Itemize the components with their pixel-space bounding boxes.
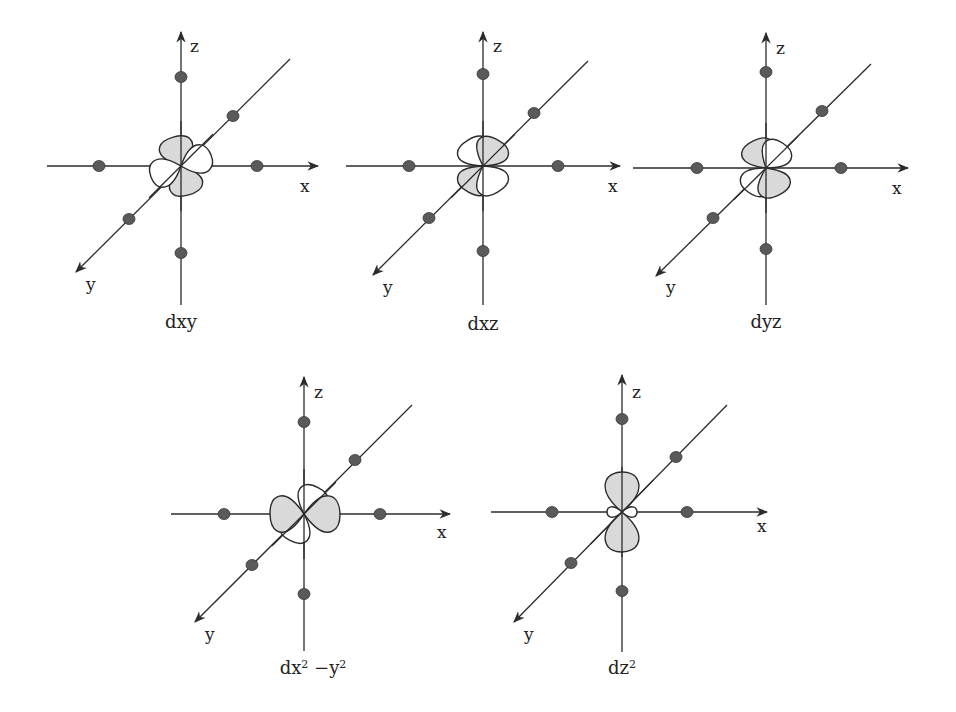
ligand-point	[298, 417, 310, 428]
ligand-point	[298, 589, 310, 600]
ligand-point	[423, 213, 435, 224]
panel-dxy: zxydxy	[47, 32, 318, 332]
ligand-point	[251, 161, 263, 172]
ligand-point	[707, 213, 719, 224]
ligand-point	[616, 586, 628, 597]
ligand-point	[616, 414, 628, 425]
y-axis-label: y	[665, 277, 676, 297]
orbital-caption: dyz	[750, 311, 781, 332]
ligand-point	[175, 248, 187, 259]
ligand-point	[835, 163, 847, 174]
ligand-point	[477, 69, 489, 80]
ligand-point	[175, 72, 187, 83]
ligand-point	[565, 558, 577, 569]
ligand-point	[670, 452, 682, 463]
ligand-point	[93, 161, 105, 172]
ligand-point	[528, 108, 540, 119]
x-axis-label: x	[757, 516, 767, 536]
ligand-point	[477, 246, 489, 257]
y-axis-label: y	[523, 624, 534, 644]
ligand-point	[552, 161, 564, 172]
orbital-diagram-canvas: zxydxyzxydxzzxydyzzxydx2 −y2zxydz2	[0, 0, 956, 712]
z-axis-label: z	[314, 382, 323, 402]
z-axis-label: z	[632, 382, 641, 402]
z-axis-label: z	[493, 36, 502, 56]
x-axis-label: x	[437, 522, 447, 542]
ligand-point	[760, 244, 772, 255]
x-axis-label: x	[300, 176, 310, 196]
z-axis-label: z	[776, 38, 785, 58]
orbital-caption: dz2	[608, 657, 636, 678]
ligand-point	[349, 455, 361, 466]
ligand-point	[227, 111, 239, 122]
ligand-point	[546, 507, 558, 518]
ligand-point	[218, 509, 230, 520]
d-orbital-figure: zxydxyzxydxzzxydyzzxydx2 −y2zxydz2 dxy d…	[0, 0, 956, 712]
panel-dx2-y2: zxydx2 −y2	[171, 377, 450, 678]
orbital-caption: dx2 −y2	[280, 657, 347, 678]
ligand-point	[691, 163, 703, 174]
ligand-point	[403, 161, 415, 172]
y-axis-label: y	[382, 277, 393, 297]
ligand-point	[681, 507, 693, 518]
panel-dz2: zxydz2	[491, 375, 767, 678]
ligand-point	[374, 509, 386, 520]
panel-dyz: zxydyz	[633, 33, 908, 332]
x-axis-label: x	[892, 178, 902, 198]
orbital-caption: dxz	[467, 313, 498, 334]
orbital-caption: dxy	[165, 311, 198, 332]
z-axis-label: z	[190, 36, 199, 56]
y-axis-label: y	[204, 624, 215, 644]
ligand-point	[760, 67, 772, 78]
x-axis-label: x	[608, 176, 618, 196]
y-axis-label: y	[85, 274, 96, 294]
ligand-point	[123, 214, 135, 225]
ligand-point	[816, 106, 828, 117]
panel-dxz: zxydxz	[346, 32, 620, 334]
ligand-point	[246, 560, 258, 571]
